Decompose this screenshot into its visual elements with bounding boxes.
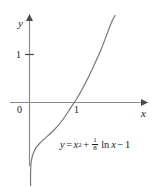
equation-equals: = [66,140,72,151]
equation-log: ln [101,140,109,151]
x-axis-tick-label-1: 1 [74,105,79,115]
x-axis-label: x [141,108,146,119]
equation-plus: + [83,140,89,151]
equation-lhs: y [60,140,65,151]
equation-fraction: 1 8 [92,137,98,153]
equation-annotation: y = x2 + 1 8 ln x − 1 [60,137,130,153]
origin-label: 0 [17,105,22,115]
y-axis-arrow-icon [26,14,33,21]
math-function-figure: y x 0 1 1 y = x2 + 1 8 ln x − 1 [0,0,156,186]
y-axis-tick-label-1: 1 [16,50,21,60]
function-curve [30,16,115,187]
x-axis-arrow-icon [141,99,148,106]
equation-log-argument: x [111,140,116,151]
plot-canvas [0,0,156,186]
equation-constant: 1 [125,140,130,151]
y-axis-label: y [18,18,23,29]
fraction-numerator: 1 [92,137,98,144]
fraction-denominator: 8 [92,144,98,152]
equation-minus: − [118,140,124,151]
